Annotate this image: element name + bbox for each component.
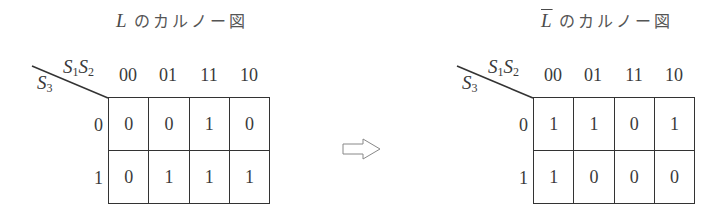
column-header: 10	[654, 65, 694, 86]
grid-cell: 1	[654, 98, 694, 151]
grid-cell: 1	[229, 151, 269, 204]
title-text: のカルノー図	[134, 12, 248, 31]
grid-cell: 1	[574, 98, 614, 151]
map-title: Lのカルノー図	[116, 8, 248, 32]
grid-cell: 1	[149, 151, 189, 204]
grid-cell: 0	[654, 151, 694, 204]
grid-cell: 1	[189, 98, 229, 151]
row-header: 1	[514, 168, 528, 189]
grid-row: 1 1 0 1	[534, 98, 695, 151]
title-variable: L	[116, 10, 128, 31]
karnaugh-map-not-L: Lのカルノー図 S1S2 S3 00 01 11 10 0 1 1 1 0 1 …	[425, 0, 724, 218]
grid-row: 0 0 1 0	[109, 98, 270, 151]
hollow-right-arrow-icon	[342, 138, 382, 160]
row-header: 1	[89, 168, 103, 189]
column-header: 11	[614, 65, 654, 86]
grid-cell: 1	[534, 98, 574, 151]
grid-cell: 0	[109, 98, 149, 151]
grid-cell: 0	[109, 151, 149, 204]
karnaugh-map-L: Lのカルノー図 S1S2 S3 00 01 11 10 0 1 0 0 1 0 …	[0, 0, 300, 218]
karnaugh-grid: 0 0 1 0 0 1 1 1	[108, 97, 270, 204]
column-variables-label: S1S2	[63, 56, 94, 80]
grid-cell: 0	[574, 151, 614, 204]
title-variable-negated: L	[541, 10, 553, 31]
grid-cell: 0	[614, 98, 654, 151]
row-header: 0	[514, 115, 528, 136]
grid-cell: 0	[149, 98, 189, 151]
row-variable-label: S3	[462, 72, 478, 96]
column-header: 00	[108, 65, 148, 86]
column-header: 11	[189, 65, 229, 86]
grid-cell: 0	[614, 151, 654, 204]
column-header: 01	[148, 65, 188, 86]
column-header: 01	[573, 65, 613, 86]
grid-row: 0 1 1 1	[109, 151, 270, 204]
row-variable-label: S3	[37, 72, 53, 96]
column-variables-label: S1S2	[488, 56, 519, 80]
grid-cell: 1	[534, 151, 574, 204]
grid-cell: 1	[189, 151, 229, 204]
grid-cell: 0	[229, 98, 269, 151]
row-header: 0	[89, 115, 103, 136]
map-title: Lのカルノー図	[541, 8, 673, 32]
karnaugh-grid: 1 1 0 1 1 0 0 0	[533, 97, 695, 204]
grid-row: 1 0 0 0	[534, 151, 695, 204]
column-header: 10	[229, 65, 269, 86]
title-text: のカルノー図	[559, 12, 673, 31]
column-header: 00	[533, 65, 573, 86]
